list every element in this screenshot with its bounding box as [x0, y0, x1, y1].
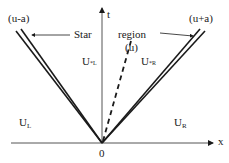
state-left-sub: L [27, 122, 31, 130]
origin-label: 0 [99, 148, 105, 159]
state-star-right-base: U [141, 55, 149, 67]
t-axis-label: t [107, 9, 110, 20]
left-wave-label: (u-a) [8, 13, 29, 24]
state-star-right: U*R [141, 56, 156, 67]
state-left: UL [19, 117, 31, 130]
region-label: region [118, 29, 146, 40]
right-wave-lines [102, 29, 205, 143]
state-right: UR [174, 117, 187, 130]
state-star-left-base: U [82, 55, 90, 67]
state-star-left-sub: *L [90, 60, 97, 66]
state-star-right-sub: *R [149, 60, 156, 66]
star-label: Star [74, 29, 92, 40]
wave-fan-graphic [0, 0, 229, 163]
riemann-problem-diagram: (u-a) (u+a) t x 0 Star region (u) U*L U*… [0, 0, 229, 163]
state-right-base: U [174, 116, 182, 128]
x-axis-label: x [218, 136, 224, 147]
state-left-base: U [19, 116, 27, 128]
region-pointer-arrow [160, 33, 193, 36]
state-star-left: U*L [82, 56, 97, 67]
state-right-sub: R [182, 122, 187, 130]
right-wave-label: (u+a) [189, 13, 213, 24]
contact-velocity-label: (u) [125, 42, 138, 53]
